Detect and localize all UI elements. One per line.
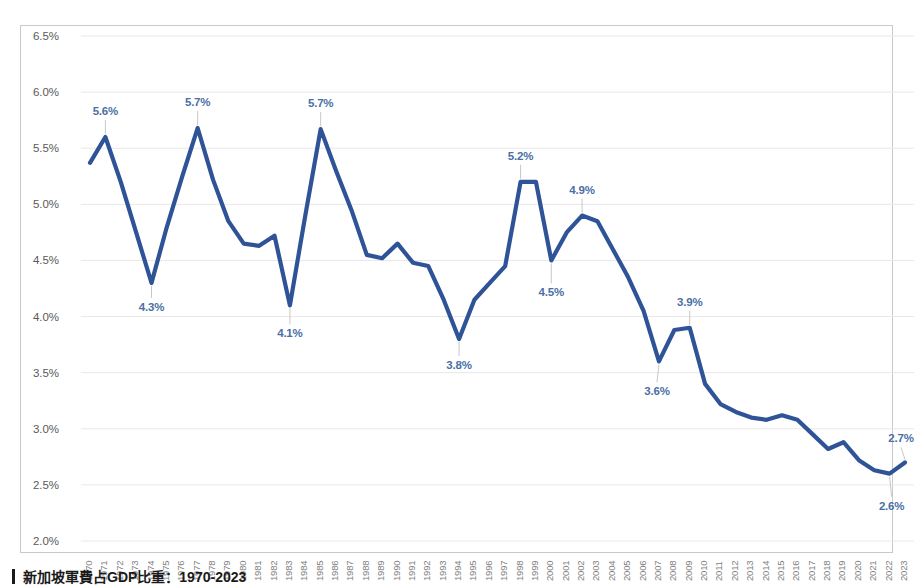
caption-bullet-icon bbox=[12, 569, 15, 584]
x-axis-tick-label: 2014 bbox=[760, 561, 771, 581]
x-axis-tick-label: 1989 bbox=[375, 561, 386, 581]
y-axis-tick-label: 3.5% bbox=[33, 367, 79, 379]
data-point-label: 2.7% bbox=[888, 432, 913, 444]
x-axis-tick-label: 2017 bbox=[806, 561, 817, 581]
caption-text: 新加坡軍費占GDP比重：1970-2023 bbox=[23, 566, 246, 586]
data-point-label: 5.6% bbox=[93, 105, 118, 117]
x-axis-tick-label: 2016 bbox=[790, 561, 801, 581]
x-axis-tick-label: 1986 bbox=[329, 561, 340, 581]
data-point-label: 4.5% bbox=[539, 286, 564, 298]
y-axis-tick-labels: 2.0%2.5%3.0%3.5%4.0%4.5%5.0%5.5%6.0%6.5% bbox=[21, 26, 79, 552]
x-axis-tick-label: 1987 bbox=[344, 561, 355, 581]
x-axis-tick-label: 1984 bbox=[298, 561, 309, 581]
x-axis-tick-label: 1993 bbox=[437, 561, 448, 581]
x-axis-tick-label: 2011 bbox=[713, 561, 724, 581]
x-axis-tick-label: 2020 bbox=[852, 561, 863, 581]
x-axis-tick-label: 2004 bbox=[606, 561, 617, 581]
data-series-line bbox=[90, 128, 905, 474]
data-point-label: 2.6% bbox=[879, 500, 904, 512]
chart-frame: 2.0%2.5%3.0%3.5%4.0%4.5%5.0%5.5%6.0%6.5%… bbox=[20, 25, 893, 553]
x-axis-tick-label: 2012 bbox=[729, 561, 740, 581]
x-axis-tick-label: 2003 bbox=[590, 561, 601, 581]
chart-figure: 2.0%2.5%3.0%3.5%4.0%4.5%5.0%5.5%6.0%6.5%… bbox=[0, 0, 916, 587]
x-axis-tick-label: 2007 bbox=[652, 561, 663, 581]
plot-area: 5.6%4.3%5.7%4.1%5.7%3.8%5.2%4.5%4.9%3.6%… bbox=[81, 36, 914, 541]
x-axis-tick-label: 2019 bbox=[836, 561, 847, 581]
x-axis-tick-label: 2008 bbox=[667, 561, 678, 581]
chart-caption: 新加坡軍費占GDP比重：1970-2023 bbox=[12, 566, 246, 586]
label-leader-line bbox=[890, 477, 892, 497]
y-axis-tick-label: 2.5% bbox=[33, 479, 79, 491]
x-axis-tick-label: 1992 bbox=[421, 561, 432, 581]
x-axis-tick-label: 2015 bbox=[775, 561, 786, 581]
data-point-label: 3.6% bbox=[644, 385, 669, 397]
x-axis-tick-label: 1983 bbox=[283, 561, 294, 581]
y-axis-tick-label: 4.5% bbox=[33, 254, 79, 266]
x-axis-tick-label: 2018 bbox=[821, 561, 832, 581]
x-axis-tick-label: 2000 bbox=[544, 561, 555, 581]
x-axis-tick-label: 1994 bbox=[452, 561, 463, 581]
label-leader-line bbox=[901, 447, 905, 459]
data-point-label: 4.9% bbox=[569, 184, 594, 196]
y-axis-tick-label: 5.0% bbox=[33, 198, 79, 210]
data-point-label: 5.7% bbox=[308, 97, 333, 109]
x-axis-tick-label: 2021 bbox=[867, 561, 878, 581]
x-axis-tick-label: 2002 bbox=[575, 561, 586, 581]
data-point-label: 4.1% bbox=[277, 327, 302, 339]
x-axis-tick-label: 2023 bbox=[898, 561, 909, 581]
x-axis-tick-label: 2006 bbox=[637, 561, 648, 581]
data-point-label: 5.7% bbox=[185, 96, 210, 108]
y-axis-tick-label: 4.0% bbox=[33, 311, 79, 323]
x-axis-tick-label: 2009 bbox=[683, 561, 694, 581]
x-axis-tick-label: 2013 bbox=[744, 561, 755, 581]
x-axis-tick-label: 1995 bbox=[467, 561, 478, 581]
label-leader-lines bbox=[105, 111, 905, 497]
line-chart-svg bbox=[81, 36, 914, 541]
data-point-label: 3.9% bbox=[677, 296, 702, 308]
data-point-label: 3.8% bbox=[446, 359, 471, 371]
x-axis-tick-label: 2022 bbox=[883, 561, 894, 581]
y-axis-tick-label: 5.5% bbox=[33, 142, 79, 154]
x-axis-tick-label: 2001 bbox=[560, 561, 571, 581]
y-axis-tick-label: 6.0% bbox=[33, 86, 79, 98]
y-axis-tick-label: 6.5% bbox=[33, 30, 79, 42]
x-axis-tick-label: 1997 bbox=[498, 561, 509, 581]
x-axis-tick-label: 1998 bbox=[514, 561, 525, 581]
gridlines bbox=[81, 36, 914, 541]
y-axis-tick-label: 3.0% bbox=[33, 423, 79, 435]
x-axis-tick-label: 2005 bbox=[621, 561, 632, 581]
x-axis-tick-label: 1982 bbox=[268, 561, 279, 581]
x-axis-tick-label: 1981 bbox=[252, 561, 263, 581]
x-axis-tick-label: 1999 bbox=[529, 561, 540, 581]
x-axis-tick-label: 2010 bbox=[698, 561, 709, 581]
x-axis-tick-label: 1988 bbox=[360, 561, 371, 581]
data-point-label: 5.2% bbox=[508, 150, 533, 162]
x-axis-tick-label: 1985 bbox=[314, 561, 325, 581]
y-axis-tick-label: 2.0% bbox=[33, 535, 79, 547]
label-leader-line bbox=[657, 364, 659, 382]
x-axis-tick-label: 1990 bbox=[391, 561, 402, 581]
x-axis-tick-label: 1996 bbox=[483, 561, 494, 581]
data-point-label: 4.3% bbox=[139, 301, 164, 313]
x-axis-tick-label: 1991 bbox=[406, 561, 417, 581]
